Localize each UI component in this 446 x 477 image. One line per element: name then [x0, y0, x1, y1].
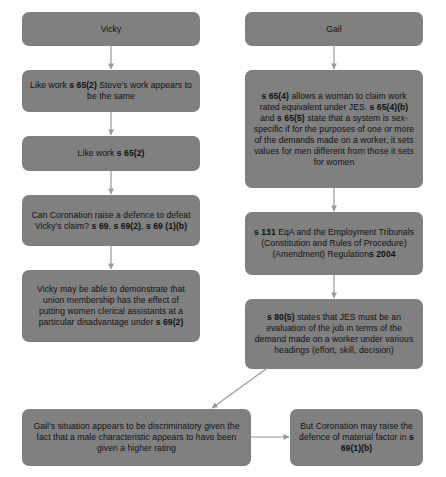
node-gail-header-label: Gail: [252, 24, 416, 35]
node-vicky-union-membership-label: Vicky may be able to demonstrate that un…: [29, 284, 193, 328]
node-vicky-like-work-label: Like work s 65(2): [29, 148, 193, 159]
node-gail-header[interactable]: Gail: [245, 12, 423, 46]
node-gail-s80-label: s 80(5) states that JES must be an evalu…: [252, 312, 416, 356]
node-vicky-defence-label: Can Coronation raise a defence to defeat…: [29, 210, 193, 232]
node-vicky-like-work-steve[interactable]: Like work s 65(2) Steve's work appears t…: [22, 70, 200, 112]
node-vicky-header[interactable]: Vicky: [22, 12, 200, 46]
node-gail-s65[interactable]: s 65(4) allows a woman to claim work rat…: [245, 70, 423, 188]
node-gail-s65-label: s 65(4) allows a woman to claim work rat…: [252, 91, 416, 168]
node-vicky-union-membership[interactable]: Vicky may be able to demonstrate that un…: [22, 270, 200, 342]
edge-s80-to-discriminatory: [212, 369, 266, 408]
node-vicky-header-label: Vicky: [29, 24, 193, 35]
node-gail-s131-label: s 131 EqA and the Employment Tribunals (…: [252, 227, 416, 260]
node-gail-s80[interactable]: s 80(5) states that JES must be an evalu…: [245, 299, 423, 369]
node-gail-s131[interactable]: s 131 EqA and the Employment Tribunals (…: [245, 212, 423, 275]
node-gail-discriminatory-label: Gail's situation appears to be discrimin…: [29, 421, 244, 454]
node-coronation-material-factor-label: But Coronation may raise the defence of …: [297, 421, 416, 454]
node-coronation-material-factor[interactable]: But Coronation may raise the defence of …: [290, 409, 423, 466]
node-vicky-like-work-steve-label: Like work s 65(2) Steve's work appears t…: [29, 80, 193, 102]
node-gail-discriminatory[interactable]: Gail's situation appears to be discrimin…: [22, 409, 251, 466]
node-vicky-like-work[interactable]: Like work s 65(2): [22, 136, 200, 171]
node-vicky-defence[interactable]: Can Coronation raise a defence to defeat…: [22, 195, 200, 246]
flowchart-canvas: Vicky Like work s 65(2) Steve's work app…: [0, 0, 446, 477]
